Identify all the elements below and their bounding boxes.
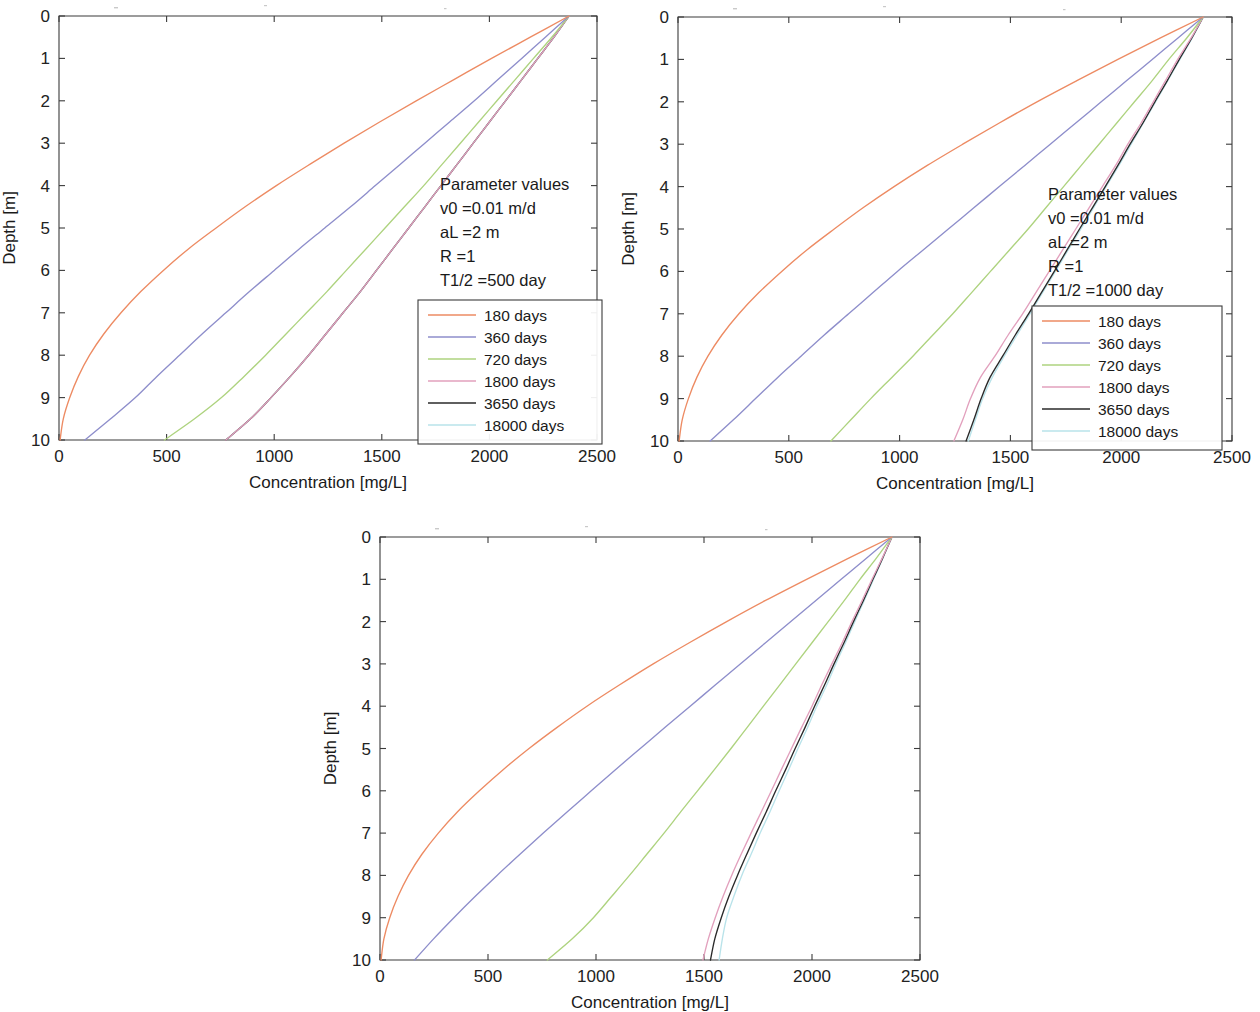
scan-speckle	[114, 5, 447, 9]
parameter-values-block: Parameter valuesv0 =0.01 m/daL =2 mR =1T…	[1048, 185, 1177, 299]
param-heading: Parameter values	[440, 175, 569, 193]
x-axis-title: Concentration [mg/L]	[876, 474, 1034, 493]
legend-label: 180 days	[1098, 313, 1161, 330]
y-tick-label: 6	[362, 782, 371, 801]
y-tick-label: 0	[41, 7, 50, 26]
x-tick-label: 2500	[578, 447, 616, 466]
y-tick-label: 4	[660, 178, 669, 197]
x-tick-label: 500	[474, 967, 502, 986]
x-tick-label: 2000	[470, 447, 508, 466]
y-tick-label: 7	[41, 304, 50, 323]
y-tick-label: 4	[41, 177, 50, 196]
y-tick-label: 8	[660, 347, 669, 366]
y-tick-label: 6	[660, 262, 669, 281]
x-tick-label: 2000	[793, 967, 831, 986]
x-tick-label: 0	[375, 967, 384, 986]
legend-label: 360 days	[1098, 335, 1161, 352]
legend-label: 1800 days	[484, 373, 556, 390]
y-tick-label: 2	[41, 92, 50, 111]
legend-label: 3650 days	[1098, 401, 1170, 418]
x-axis: 05001000150020002500	[375, 537, 939, 986]
param-halflife: T1/2 =1000 day	[1048, 281, 1164, 299]
y-tick-label: 3	[362, 655, 371, 674]
y-tick-label: 9	[41, 389, 50, 408]
y-tick-label: 0	[660, 8, 669, 27]
param-R: R =1	[1048, 257, 1083, 275]
x-tick-label: 1000	[881, 448, 919, 467]
parameter-values-block: Parameter valuesv0 =0.01 m/daL =2 mR =1T…	[440, 175, 569, 289]
y-tick-label: 9	[660, 390, 669, 409]
y-axis-title: Depth [m]	[0, 191, 19, 265]
x-tick-label: 2500	[901, 967, 939, 986]
legend-label: 3650 days	[484, 395, 556, 412]
curves-group	[381, 537, 892, 960]
param-v0: v0 =0.01 m/d	[440, 199, 536, 217]
x-axis-title: Concentration [mg/L]	[249, 473, 407, 492]
y-tick-label: 0	[362, 528, 371, 547]
legend: 180 days360 days720 days1800 days3650 da…	[1032, 306, 1222, 450]
series-curve	[415, 537, 892, 960]
legend-label: 720 days	[484, 351, 547, 368]
chart-svg: 05001000150020002500012345678910Concentr…	[320, 500, 950, 1012]
legend-label: 720 days	[1098, 357, 1161, 374]
legend-label: 1800 days	[1098, 379, 1170, 396]
scan-speckle	[435, 526, 768, 530]
param-heading: Parameter values	[1048, 185, 1177, 203]
y-tick-label: 1	[660, 50, 669, 69]
y-tick-label: 2	[660, 93, 669, 112]
y-tick-label: 10	[650, 432, 669, 451]
series-curve	[719, 537, 892, 960]
x-tick-label: 2000	[1102, 448, 1140, 467]
legend-label: 180 days	[484, 307, 547, 324]
x-tick-label: 1500	[685, 967, 723, 986]
param-aL: aL =2 m	[440, 223, 499, 241]
x-tick-label: 1000	[577, 967, 615, 986]
y-tick-label: 5	[362, 740, 371, 759]
param-R: R =1	[440, 247, 475, 265]
x-tick-label: 1500	[991, 448, 1029, 467]
scan-speckle	[733, 6, 1066, 10]
x-tick-label: 500	[775, 448, 803, 467]
legend: 180 days360 days720 days1800 days3650 da…	[418, 300, 602, 444]
legend-label: 18000 days	[484, 417, 564, 434]
y-tick-label: 7	[660, 305, 669, 324]
y-tick-label: 3	[660, 135, 669, 154]
y-tick-label: 4	[362, 697, 371, 716]
chart-svg: 05001000150020002500012345678910Concentr…	[0, 0, 630, 500]
param-aL: aL =2 m	[1048, 233, 1107, 251]
param-halflife: T1/2 =500 day	[440, 271, 547, 289]
chart-panel-c: 05001000150020002500012345678910Concentr…	[320, 500, 950, 1012]
chart-svg: 05001000150020002500012345678910Concentr…	[630, 0, 1260, 500]
y-tick-label: 1	[362, 570, 371, 589]
x-tick-label: 0	[54, 447, 63, 466]
y-tick-label: 1	[41, 49, 50, 68]
y-tick-label: 6	[41, 261, 50, 280]
x-tick-label: 0	[673, 448, 682, 467]
y-tick-label: 5	[660, 220, 669, 239]
legend-label: 360 days	[484, 329, 547, 346]
param-v0: v0 =0.01 m/d	[1048, 209, 1144, 227]
y-axis: 012345678910	[352, 528, 920, 970]
y-axis-title: Depth [m]	[321, 712, 340, 786]
x-tick-label: 2500	[1213, 448, 1251, 467]
y-tick-label: 10	[31, 431, 50, 450]
y-tick-label: 8	[41, 346, 50, 365]
x-axis-title: Concentration [mg/L]	[571, 993, 729, 1012]
y-tick-label: 7	[362, 824, 371, 843]
y-tick-label: 3	[41, 134, 50, 153]
x-tick-label: 1500	[363, 447, 401, 466]
x-tick-label: 1000	[255, 447, 293, 466]
chart-panel-a: 05001000150020002500012345678910Concentr…	[0, 0, 630, 500]
plot-frame	[380, 537, 920, 960]
y-tick-label: 5	[41, 219, 50, 238]
x-tick-label: 500	[152, 447, 180, 466]
y-axis-title: Depth [m]	[619, 192, 638, 266]
y-tick-label: 8	[362, 866, 371, 885]
series-curve	[547, 537, 892, 960]
legend-label: 18000 days	[1098, 423, 1178, 440]
y-tick-label: 10	[352, 951, 371, 970]
chart-panel-b: 05001000150020002500012345678910Concentr…	[630, 0, 1260, 500]
y-tick-label: 9	[362, 909, 371, 928]
y-tick-label: 2	[362, 613, 371, 632]
